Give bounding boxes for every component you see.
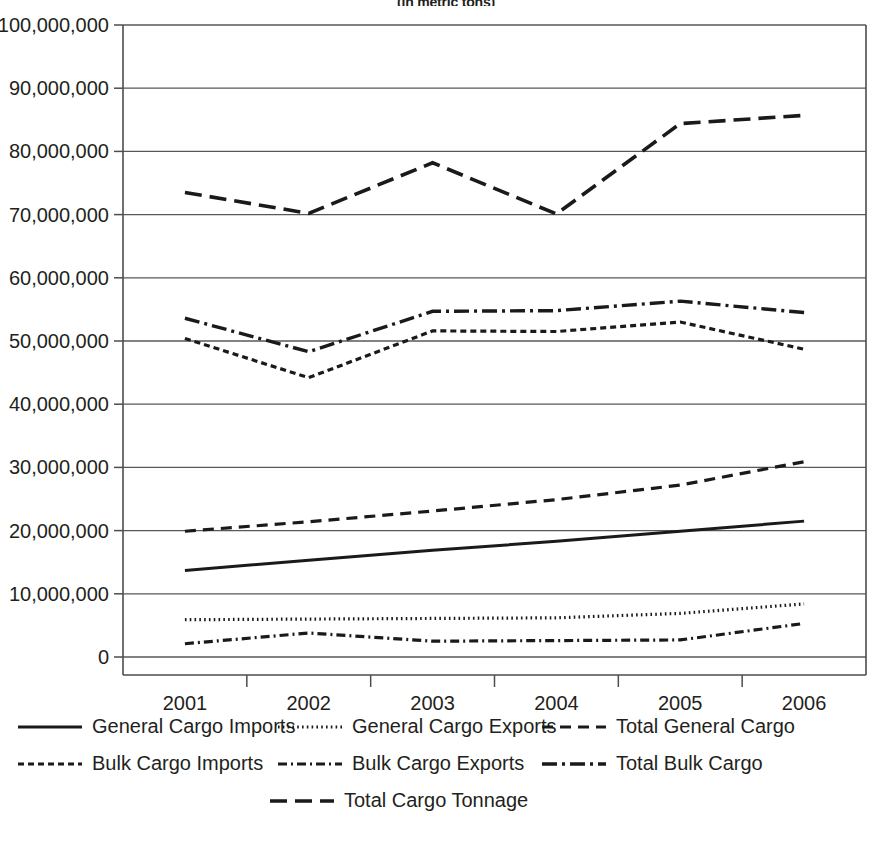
legend-item-label: General Cargo Imports [92, 715, 295, 737]
legend: General Cargo ImportsGeneral Cargo Expor… [18, 715, 795, 811]
series-line-4 [185, 624, 804, 644]
legend-item-label: General Cargo Exports [352, 715, 557, 737]
series-line-5 [185, 301, 804, 352]
legend-item-label: Bulk Cargo Exports [352, 752, 524, 774]
legend-item[interactable]: Bulk Cargo Imports [18, 752, 263, 774]
x-axis-tick-label: 2006 [782, 692, 827, 714]
legend-item[interactable]: General Cargo Imports [18, 715, 295, 737]
y-axis-tick-label: 10,000,000 [9, 583, 109, 605]
legend-item[interactable]: Total General Cargo [542, 715, 795, 737]
x-axis-tick-label: 2001 [163, 692, 208, 714]
y-axis-tick-label: 70,000,000 [9, 204, 109, 226]
legend-item-label: Total Bulk Cargo [616, 752, 763, 774]
y-axis-tick-label: 80,000,000 [9, 140, 109, 162]
series-line-3 [185, 322, 804, 378]
y-axis-tick-label: 20,000,000 [9, 520, 109, 542]
y-axis-tick-label: 100,000,000 [0, 14, 109, 36]
y-axis-tick-label: 0 [98, 646, 109, 668]
legend-item-label: Bulk Cargo Imports [92, 752, 263, 774]
grid-group: 010,000,00020,000,00030,000,00040,000,00… [0, 14, 866, 668]
legend-item[interactable]: Total Cargo Tonnage [270, 789, 528, 811]
y-axis-tick-label: 60,000,000 [9, 267, 109, 289]
chart-title: (in metric tons) [0, 0, 892, 6]
legend-item-label: Total Cargo Tonnage [344, 789, 528, 811]
series-group [185, 115, 804, 643]
x-axis-tick-label: 2002 [287, 692, 332, 714]
cargo-tonnage-line-chart: (in metric tons) 010,000,00020,000,00030… [0, 0, 892, 843]
x-axis-tick-label: 2003 [410, 692, 455, 714]
chart-canvas: 010,000,00020,000,00030,000,00040,000,00… [0, 0, 892, 843]
x-axis-tick-label: 2004 [534, 692, 579, 714]
series-line-6 [185, 115, 804, 214]
y-axis-tick-label: 50,000,000 [9, 330, 109, 352]
series-line-1 [185, 604, 804, 620]
y-axis-tick-label: 30,000,000 [9, 456, 109, 478]
legend-item[interactable]: Bulk Cargo Exports [278, 752, 524, 774]
legend-item-label: Total General Cargo [616, 715, 795, 737]
y-axis-tick-label: 90,000,000 [9, 77, 109, 99]
series-line-2 [185, 462, 804, 532]
series-line-0 [185, 521, 804, 570]
x-axis-tick-label: 2005 [658, 692, 703, 714]
legend-item[interactable]: General Cargo Exports [278, 715, 557, 737]
y-axis-tick-label: 40,000,000 [9, 393, 109, 415]
legend-item[interactable]: Total Bulk Cargo [542, 752, 763, 774]
